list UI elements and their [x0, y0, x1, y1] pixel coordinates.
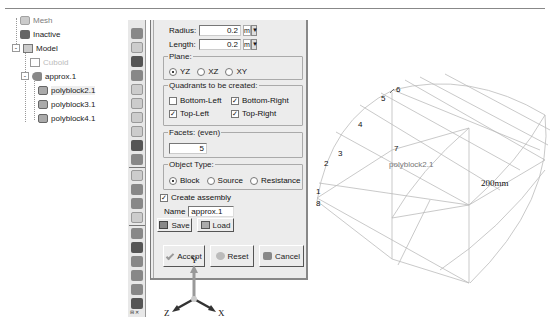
source-label: Source [218, 176, 243, 185]
name-label: Name [164, 207, 185, 216]
top-left-label: Top-Left [180, 109, 209, 118]
facets-input[interactable]: 5 [169, 143, 207, 154]
length-label: Length: [169, 40, 199, 49]
align-bottom-tool-icon[interactable] [131, 298, 143, 309]
cube-icon [30, 58, 40, 67]
object-name-label: polyblock2.1 [389, 160, 434, 169]
plane-yz-radio[interactable] [169, 68, 177, 76]
object-type-group: Object Type: [163, 160, 303, 190]
vertex-label-1: 1 [316, 187, 321, 196]
quadrant-bottom-right[interactable]: ✓ Bottom-Right [231, 96, 289, 105]
align-left-tool-icon[interactable] [131, 228, 143, 239]
tree-item-inactive[interactable]: Inactive [20, 28, 61, 40]
quadrant-top-right[interactable]: ✓ Top-Right [231, 109, 276, 118]
align-middle-tool-icon[interactable] [131, 284, 143, 295]
resistance-label: Resistance [261, 176, 301, 185]
plane-xz-radio[interactable] [197, 68, 205, 76]
tree-item-polyblock3[interactable]: polyblock3.1 [38, 98, 95, 110]
quadrant-bottom-left[interactable]: Bottom-Left [169, 96, 221, 105]
collapse-icon[interactable]: - [21, 72, 29, 80]
vertex-label-6: 6 [396, 85, 401, 94]
facets-legend: Facets: (even) [168, 128, 221, 137]
radius-label: Radius: [169, 26, 199, 35]
create-assembly-checkbox[interactable]: ✓ [160, 194, 168, 202]
axis-triad: Y Z X [160, 255, 230, 317]
dialog-edge [153, 20, 154, 278]
sphere-tool-icon[interactable] [131, 84, 143, 95]
create-assembly-row[interactable]: ✓ Create assembly [160, 193, 231, 202]
cutout-tool-icon[interactable] [131, 184, 143, 195]
assembly-tool-icon[interactable] [131, 28, 143, 39]
z-axis-label: Z [164, 308, 170, 317]
resistance-radio[interactable] [250, 177, 258, 185]
tree-connector [25, 52, 26, 122]
block-icon [38, 114, 48, 123]
polyblock-wireframe [317, 74, 550, 283]
vertex-label-3: 3 [338, 149, 343, 158]
hole-tool-icon[interactable] [131, 212, 143, 223]
length-input[interactable]: 0.2 [199, 39, 241, 50]
load-label: Load [213, 221, 231, 230]
radius-input[interactable]: 0.2 [199, 25, 241, 36]
align-top-tool-icon[interactable] [131, 270, 143, 281]
gear-tool-icon[interactable] [131, 98, 143, 109]
align-right-tool-icon[interactable] [131, 256, 143, 267]
tree-item-cuboid[interactable]: Cuboid [30, 56, 68, 68]
create-assembly-label: Create assembly [171, 193, 231, 202]
fan-tool-icon[interactable] [131, 140, 143, 151]
bottom-left-checkbox[interactable] [169, 97, 177, 105]
length-unit: m [243, 39, 251, 50]
vertex-label-7: 7 [394, 144, 399, 153]
quadrant-top-left[interactable]: ✓ Top-Left [169, 109, 209, 118]
model-tree: Mesh Inactive - Model Cuboid - approx.1 … [8, 18, 118, 128]
bottom-right-label: Bottom-Right [242, 96, 289, 105]
enclosure-tool-icon[interactable] [131, 170, 143, 181]
length-unit-dropdown-icon[interactable]: ▼ [251, 39, 257, 50]
radius-unit-dropdown-icon[interactable]: ▼ [251, 25, 257, 36]
cylinder-tool-icon[interactable] [131, 70, 143, 81]
inactive-icon [20, 30, 30, 39]
top-right-checkbox[interactable]: ✓ [231, 110, 239, 118]
bottom-right-checkbox[interactable]: ✓ [231, 97, 239, 105]
collapse-icon[interactable]: - [12, 44, 20, 52]
load-button[interactable]: Load [197, 218, 234, 232]
dimension-label: 200mm [481, 178, 509, 188]
polyblock-dialog: Radius: 0.2 m ▼ Length: 0.2 m ▼ Plane: Y… [150, 20, 308, 280]
plane-xy-radio[interactable] [225, 68, 233, 76]
bottom-left-label: Bottom-Left [180, 96, 221, 105]
name-input[interactable]: approx.1 [188, 206, 234, 217]
3d-viewport[interactable]: 6 5 4 3 7 2 1 8 polyblock2.1 200mm [308, 20, 553, 317]
page-top-rule [5, 8, 545, 9]
network-tool-icon[interactable] [131, 154, 143, 165]
tree-item-polyblock4[interactable]: polyblock4.1 [38, 112, 95, 124]
radius-unit: m [243, 25, 251, 36]
block-label: Block [180, 176, 200, 185]
block-icon [38, 100, 48, 109]
save-label: Save [171, 221, 189, 230]
block-radio[interactable] [169, 177, 177, 185]
tree-item-mesh[interactable]: Mesh [20, 14, 53, 26]
reset-label: Reset [228, 252, 249, 261]
plate-tool-icon[interactable] [131, 112, 143, 123]
plane-yz-label: YZ [180, 67, 190, 76]
tree-item-model[interactable]: - Model [12, 42, 58, 54]
source-radio[interactable] [207, 177, 215, 185]
assembly-icon [32, 72, 42, 81]
source-tool-icon[interactable] [131, 42, 143, 53]
model-icon [23, 44, 33, 53]
block-tool-icon[interactable] [131, 56, 143, 67]
load-icon [201, 221, 210, 229]
wall-tool-icon[interactable] [131, 126, 143, 137]
toolbar-grip[interactable]: ⊟ ✕ [130, 309, 139, 315]
tree-item-assembly[interactable]: - approx.1 [21, 70, 76, 82]
opening-tool-icon[interactable] [131, 198, 143, 209]
toolbar-separator [129, 167, 145, 168]
x-axis-label: X [218, 308, 225, 317]
plane-xy-label: XY [236, 67, 247, 76]
tree-item-polyblock2[interactable]: polyblock2.1 [38, 84, 95, 96]
top-left-checkbox[interactable]: ✓ [169, 110, 177, 118]
align-center-tool-icon[interactable] [131, 242, 143, 253]
cancel-button[interactable]: Cancel [259, 245, 304, 267]
cancel-label: Cancel [275, 252, 300, 261]
save-button[interactable]: Save [157, 218, 192, 232]
